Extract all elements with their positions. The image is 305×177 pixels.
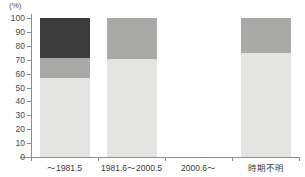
bar-segment-light bbox=[241, 53, 291, 157]
bar-segment-dark bbox=[40, 18, 90, 58]
bar bbox=[241, 18, 291, 157]
x-category-label: 1981.6～2000.5 bbox=[101, 163, 162, 173]
y-tick-label: 60 bbox=[16, 70, 25, 78]
y-tick-label: 50 bbox=[16, 84, 25, 92]
x-category-label: 2000.6～ bbox=[181, 163, 216, 173]
y-tick-label: 0 bbox=[20, 153, 25, 161]
stacked-bar-chart: (%) 0102030405060708090100 ～1981.51981.6… bbox=[0, 0, 305, 177]
x-tick-mark bbox=[232, 157, 233, 161]
x-tick-mark bbox=[299, 157, 300, 161]
y-tick-label: 40 bbox=[16, 97, 25, 105]
y-axis-unit-label: (%) bbox=[9, 1, 21, 10]
x-tick-mark bbox=[165, 157, 166, 161]
y-tick-label: 100 bbox=[11, 14, 25, 22]
bar-segment-medium bbox=[241, 18, 291, 53]
x-axis-line bbox=[20, 157, 299, 158]
x-category-label: 時期不明 bbox=[248, 163, 284, 173]
y-tick-label: 70 bbox=[16, 56, 25, 64]
y-tick-label: 30 bbox=[16, 111, 25, 119]
bar bbox=[40, 18, 90, 157]
plot-area bbox=[31, 18, 299, 157]
y-tick-label: 20 bbox=[16, 125, 25, 133]
y-tick-label: 90 bbox=[16, 28, 25, 36]
x-category-label: ～1981.5 bbox=[47, 163, 82, 173]
bar-segment-light bbox=[107, 59, 157, 157]
bar-segment-light bbox=[40, 78, 90, 157]
y-tick-label: 80 bbox=[16, 42, 25, 50]
x-tick-mark bbox=[31, 157, 32, 161]
y-tick-label: 10 bbox=[16, 139, 25, 147]
bar-segment-medium bbox=[40, 58, 90, 77]
bar-segment-medium bbox=[107, 18, 157, 59]
x-tick-mark bbox=[98, 157, 99, 161]
bar bbox=[107, 18, 157, 157]
y-axis-ticks: 0102030405060708090100 bbox=[0, 18, 31, 157]
